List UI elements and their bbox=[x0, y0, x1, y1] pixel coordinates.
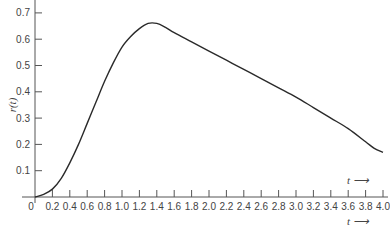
x-tick-label: 0 bbox=[28, 201, 34, 212]
x-tick-label: 3.4 bbox=[324, 201, 338, 212]
x-axis-label-upper: t ⟶ bbox=[347, 174, 370, 186]
y-tick-label: 0.4 bbox=[16, 86, 30, 97]
line-chart: 00.20.40.60.81.01.21.41.61.82.02.22.42.6… bbox=[0, 0, 390, 229]
x-tick-label: 1.2 bbox=[132, 201, 146, 212]
x-tick-label: 3.6 bbox=[341, 201, 355, 212]
x-tick-label: 2.0 bbox=[202, 201, 216, 212]
y-tick-label: 0.1 bbox=[16, 165, 30, 176]
x-tick-label: 1.6 bbox=[167, 201, 181, 212]
x-tick-label: 2.6 bbox=[254, 201, 268, 212]
x-tick-label: 2.4 bbox=[237, 201, 251, 212]
y-tick-label: 0.3 bbox=[16, 113, 30, 124]
x-tick-label: 1.8 bbox=[185, 201, 199, 212]
y-tick-label: 0.5 bbox=[16, 60, 30, 71]
x-tick-label: 1.4 bbox=[150, 201, 164, 212]
x-tick-label: 3.8 bbox=[359, 201, 373, 212]
y-axis-label: r(t) bbox=[6, 97, 19, 112]
x-tick-label: 4.0 bbox=[376, 201, 390, 212]
x-tick-label: 0.8 bbox=[98, 201, 112, 212]
x-tick-label: 2.8 bbox=[272, 201, 286, 212]
x-tick-label: 0.4 bbox=[63, 201, 77, 212]
x-tick-label: 0.6 bbox=[80, 201, 94, 212]
x-tick-label: 3.0 bbox=[289, 201, 303, 212]
x-ticks: 00.20.40.60.81.01.21.41.61.82.02.22.42.6… bbox=[28, 190, 390, 212]
x-tick-label: 3.2 bbox=[306, 201, 320, 212]
x-tick-label: 2.2 bbox=[219, 201, 233, 212]
y-tick-label: 0.7 bbox=[16, 7, 30, 18]
y-ticks: 0.10.20.30.40.50.60.7 bbox=[16, 7, 42, 176]
x-tick-label: 1.0 bbox=[115, 201, 129, 212]
axes bbox=[22, 0, 388, 203]
y-tick-label: 0.6 bbox=[16, 34, 30, 45]
y-tick-label: 0.2 bbox=[16, 139, 30, 150]
x-tick-label: 0.2 bbox=[45, 201, 59, 212]
x-axis-label-lower: t ⟶ bbox=[347, 215, 370, 227]
data-line bbox=[35, 23, 383, 197]
